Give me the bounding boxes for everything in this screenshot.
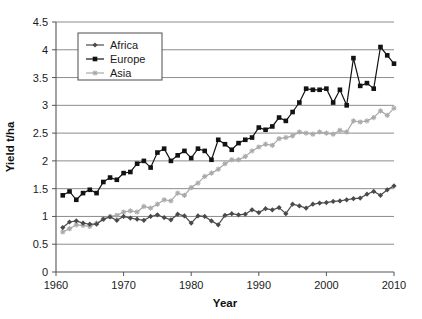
data-point <box>256 210 261 215</box>
data-point <box>175 191 180 196</box>
data-point <box>148 206 153 211</box>
data-point <box>189 156 194 161</box>
data-point <box>135 209 140 214</box>
data-point <box>263 206 268 211</box>
data-point <box>283 135 288 140</box>
data-point <box>257 125 262 130</box>
y-tick-label: 4.5 <box>33 16 48 28</box>
x-axis-ticks-group: 196019701980199020002010 <box>44 272 406 291</box>
x-tick-label: 1970 <box>111 279 135 291</box>
chart-canvas: 00.511.522.533.544.5 1960197019801990200… <box>0 0 422 319</box>
data-point <box>297 129 302 134</box>
data-point <box>317 201 322 206</box>
data-point <box>67 189 72 194</box>
data-point <box>364 192 369 197</box>
data-point <box>135 161 140 166</box>
data-point <box>141 218 146 223</box>
data-point <box>209 171 214 176</box>
data-point <box>358 84 363 89</box>
data-point <box>114 213 119 218</box>
data-point <box>250 135 255 140</box>
data-point <box>128 208 133 213</box>
data-point <box>378 45 383 50</box>
data-point <box>108 175 113 180</box>
data-point <box>243 137 248 142</box>
y-tick-label: 2.5 <box>33 127 48 139</box>
data-point <box>223 142 228 147</box>
y-tick-label: 0.5 <box>33 238 48 250</box>
x-tick-label: 2000 <box>314 279 338 291</box>
data-point <box>371 189 376 194</box>
legend-label-africa: Africa <box>110 39 139 51</box>
data-point <box>351 196 356 201</box>
data-point <box>162 197 167 202</box>
y-tick-label: 1 <box>42 210 48 222</box>
x-tick-label: 2010 <box>382 279 406 291</box>
yield-line-chart: 00.511.522.533.544.5 1960197019801990200… <box>0 0 422 319</box>
y-tick-label: 3 <box>42 99 48 111</box>
legend-label-europe: Europe <box>110 53 145 65</box>
y-axis-ticks-group: 00.511.522.533.544.5 <box>33 16 56 278</box>
data-point <box>392 61 397 66</box>
data-point <box>344 103 349 108</box>
data-point <box>121 214 126 219</box>
data-point <box>229 157 234 162</box>
series-line <box>63 108 394 232</box>
data-point <box>101 180 106 185</box>
data-point <box>358 196 363 201</box>
data-point <box>135 217 140 222</box>
data-point <box>317 87 322 92</box>
data-point <box>121 209 126 214</box>
data-point <box>337 128 342 133</box>
data-point <box>338 87 343 92</box>
x-tick-label: 1990 <box>247 279 271 291</box>
data-point <box>195 181 200 186</box>
data-point <box>202 174 207 179</box>
data-point <box>391 106 396 111</box>
data-point <box>297 203 302 208</box>
data-point <box>148 214 153 219</box>
x-axis-title: Year <box>213 297 238 309</box>
data-point <box>304 131 309 136</box>
data-point <box>162 146 167 151</box>
data-point <box>60 229 65 234</box>
data-point <box>128 170 133 175</box>
legend-label-asia: Asia <box>110 67 132 79</box>
y-axis-title: Yield t/ha <box>4 121 16 172</box>
data-point <box>344 197 349 202</box>
data-point <box>331 100 336 105</box>
y-tick-label: 3.5 <box>33 72 48 84</box>
y-tick-label: 2 <box>42 155 48 167</box>
data-point <box>209 157 214 162</box>
data-point <box>385 53 390 58</box>
data-point <box>371 115 376 120</box>
data-point <box>182 149 187 154</box>
data-point <box>229 147 234 152</box>
data-point <box>60 193 65 198</box>
data-point <box>74 197 79 202</box>
data-point <box>256 144 261 149</box>
data-point <box>222 161 227 166</box>
data-point <box>94 191 99 196</box>
series-line <box>63 186 394 228</box>
data-point <box>331 199 336 204</box>
data-point <box>290 133 295 138</box>
data-point <box>263 127 268 132</box>
data-point <box>304 86 309 91</box>
data-point <box>182 193 187 198</box>
data-point <box>324 86 329 91</box>
data-point <box>324 200 329 205</box>
data-point <box>290 110 295 115</box>
data-point <box>277 115 282 120</box>
data-point <box>365 81 370 86</box>
data-point <box>216 167 221 172</box>
data-point <box>344 129 349 134</box>
data-point <box>169 159 174 164</box>
y-tick-label: 4 <box>42 44 48 56</box>
data-point <box>249 148 254 153</box>
data-point <box>317 129 322 134</box>
data-point <box>93 57 98 62</box>
data-point <box>243 154 248 159</box>
data-point <box>364 118 369 123</box>
data-point <box>88 187 93 192</box>
